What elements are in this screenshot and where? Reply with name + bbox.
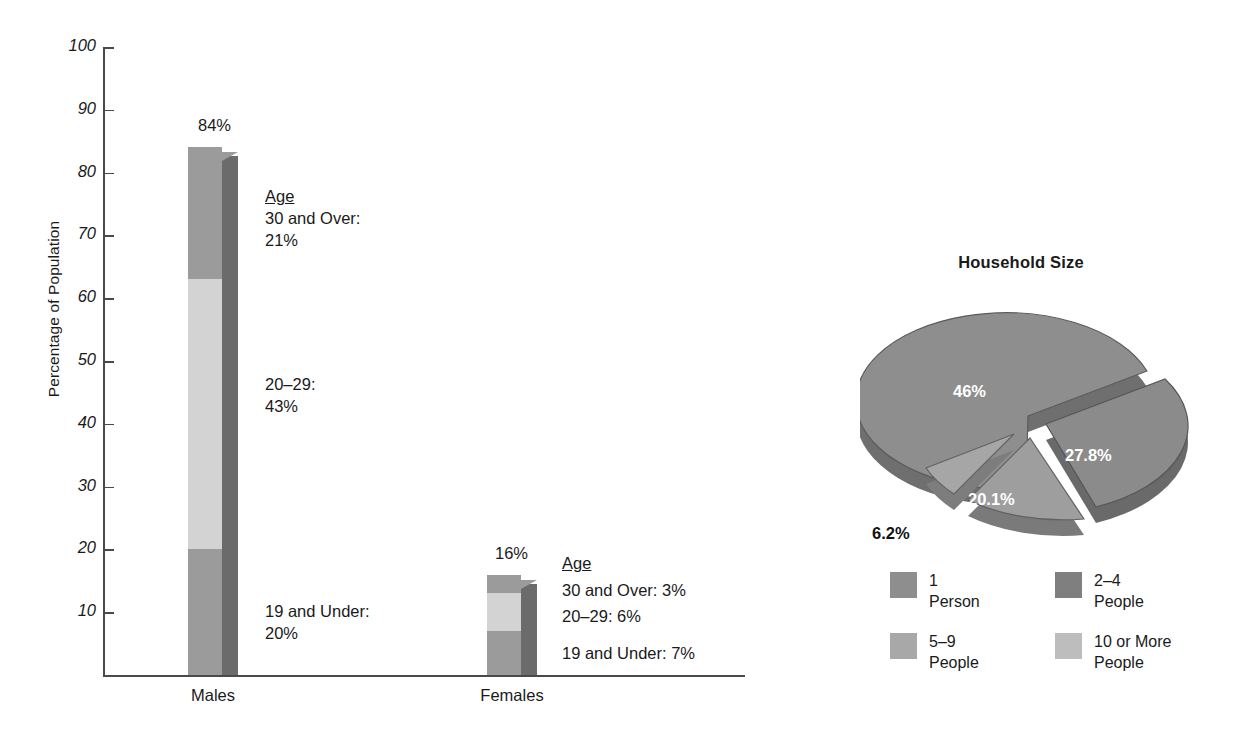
legend-swatch-5-9-people (890, 633, 917, 659)
bar-side-face (222, 156, 238, 675)
legend-swatch-2-4-people (1055, 572, 1082, 598)
females-annotation-header-row: Age (562, 553, 591, 575)
females-annotation-mid: 20–29: 6% (562, 606, 641, 628)
legend-item-5-9-people[interactable]: 5–9 People (890, 631, 979, 673)
males-annotation-top-value: 21% (265, 231, 298, 249)
males-annotation-bottom: 19 and Under: 20% (265, 601, 370, 645)
y-tick-mark (103, 487, 114, 489)
y-tick-label: 60 (40, 287, 96, 306)
males-annotation-bottom-value: 20% (265, 624, 298, 642)
y-tick-label: 10 (40, 601, 96, 620)
x-axis-label-males: Males (148, 686, 278, 705)
legend-item-10-or-more-people[interactable]: 10 or More People (1055, 631, 1171, 673)
y-tick-label: 30 (40, 476, 96, 495)
bar-segment[interactable] (188, 147, 222, 279)
legend-swatch-1-person (890, 572, 917, 598)
males-annotation-top-label: 30 and Over: (265, 209, 360, 227)
bar-top-face (487, 575, 537, 584)
legend-swatch-10-or-more-people (1055, 633, 1082, 659)
y-tick-mark (103, 424, 114, 426)
bar-segment[interactable] (188, 279, 222, 549)
bar-females-value-label: 16% (495, 544, 528, 563)
males-annotation-mid-label: 20–29: (265, 375, 315, 393)
males-annotation-mid-value: 43% (265, 397, 298, 415)
pie-label-27-8: 27.8% (1065, 446, 1112, 465)
legend-label-10-or-more-people: 10 or More People (1094, 631, 1171, 673)
y-tick-mark (103, 549, 114, 551)
y-tick-mark (103, 612, 114, 614)
y-tick-mark (103, 173, 114, 175)
y-tick-label: 50 (40, 350, 96, 369)
x-axis-label-females: Females (447, 686, 577, 705)
x-axis-line (103, 675, 745, 677)
y-tick-mark (103, 235, 114, 237)
y-tick-label: 20 (40, 538, 96, 557)
y-tick-mark (103, 361, 114, 363)
bar-segment[interactable] (487, 631, 521, 675)
males-annotation-header: Age (265, 187, 294, 205)
bar-side-face (521, 584, 537, 675)
legend-item-1-person[interactable]: 1 Person (890, 570, 980, 612)
y-tick-label: 90 (40, 99, 96, 118)
y-tick-label: 40 (40, 413, 96, 432)
pie-chart-panel: Household Size (790, 0, 1252, 739)
pie-label-46: 46% (953, 382, 986, 401)
y-tick-mark (103, 47, 114, 49)
bar-segment[interactable] (188, 549, 222, 675)
pie-chart-graphic[interactable] (860, 296, 1210, 546)
bar-top-face (188, 147, 238, 156)
bar-males-value-label: 84% (198, 116, 231, 135)
pie-label-6-2: 6.2% (872, 524, 910, 543)
females-annotation-bottom: 19 and Under: 7% (562, 643, 695, 665)
y-tick-mark (103, 298, 114, 300)
females-annotation-header: Age (562, 554, 591, 572)
y-tick-label: 100 (40, 36, 96, 55)
pie-label-20-1: 20.1% (968, 490, 1015, 509)
bar-chart-panel: Percentage of Population 100908070605040… (0, 0, 790, 739)
pie-chart-title: Household Size (790, 253, 1252, 272)
legend-label-1-person: 1 Person (929, 570, 980, 612)
y-tick-label: 70 (40, 224, 96, 243)
legend-item-2-4-people[interactable]: 2–4 People (1055, 570, 1144, 612)
males-annotation-top: Age 30 and Over: 21% (265, 186, 360, 252)
bar-males[interactable] (188, 147, 238, 675)
males-annotation-mid: 20–29: 43% (265, 374, 315, 418)
legend-label-5-9-people: 5–9 People (929, 631, 979, 673)
bar-segment[interactable] (487, 593, 521, 631)
bar-females[interactable] (487, 575, 537, 675)
y-tick-mark (103, 110, 114, 112)
males-annotation-bottom-label: 19 and Under: (265, 602, 370, 620)
y-tick-label: 80 (40, 162, 96, 181)
legend-label-2-4-people: 2–4 People (1094, 570, 1144, 612)
figure-root: Percentage of Population 100908070605040… (0, 0, 1252, 739)
females-annotation-top: 30 and Over: 3% (562, 580, 686, 602)
